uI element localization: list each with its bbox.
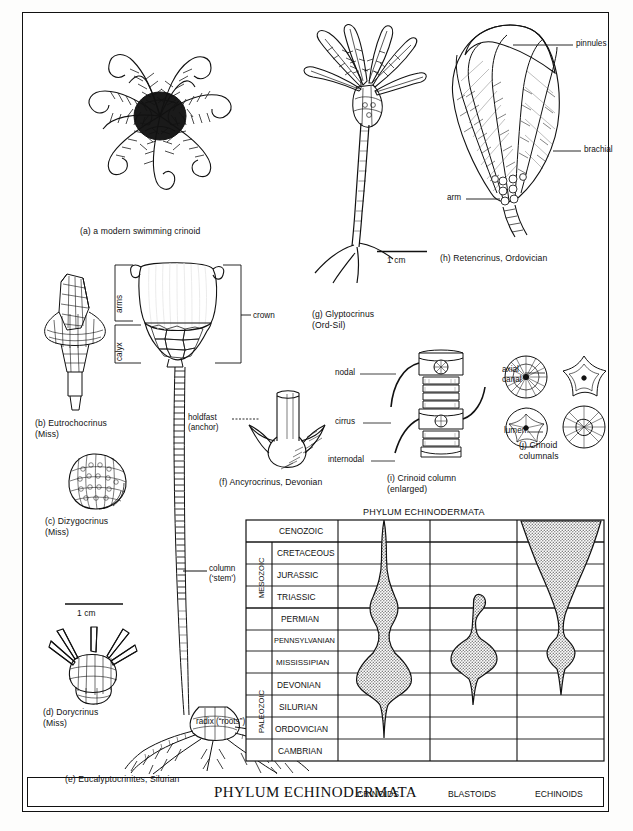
figure-a-caption: (a) a modern swimming crinoid xyxy=(80,226,200,237)
figure-f-ancyrocrinus xyxy=(245,391,329,473)
figure-i-crinoid-column xyxy=(389,345,499,465)
era-label-paleozoic: PALEOZOIC xyxy=(257,690,266,733)
period-label-triassic: TRIASSIC xyxy=(277,592,316,602)
crinoid-swimming-drawing xyxy=(45,21,275,211)
figure-e-crown xyxy=(111,259,251,369)
label-arm: arm xyxy=(447,193,461,203)
column-label-leader xyxy=(183,569,209,573)
figure-c-caption: (c) Dizygocrinus (Miss) xyxy=(45,516,108,538)
figure-c-dizygocrinus xyxy=(63,451,133,513)
plate-banner-title: PHYLUM ECHINODERMATA xyxy=(214,784,417,801)
figure-h-caption: (h) Retencrinus, Ordovician xyxy=(440,253,547,264)
label-cirrus: cirrus xyxy=(335,417,355,427)
era-label-mesozoic: MESOZOIC xyxy=(257,557,266,598)
eutrochocrinus-drawing xyxy=(37,268,115,418)
holdfast-label-leader xyxy=(232,417,262,421)
label-nodal: nodal xyxy=(335,368,355,378)
label-lumen: lumen xyxy=(504,426,526,436)
label-axial-canal: axial canal xyxy=(502,365,522,385)
scale-bar-left-label: 1 cm xyxy=(77,608,96,619)
label-calyx: calyx xyxy=(115,342,124,361)
label-radix: radix (“roots”) xyxy=(196,717,245,727)
crinoid-column-enlarged-drawing xyxy=(389,345,499,465)
brachial-label-leader xyxy=(553,149,583,153)
cirrus-label-leader xyxy=(363,421,393,425)
figure-g-caption: (g) Glyptocrinus (Ord-Sil) xyxy=(312,309,374,331)
figure-h-retencrinus xyxy=(435,21,575,241)
period-label-cenozoic: CENOZOIC xyxy=(279,526,323,536)
figure-i-caption: (i) Crinoid column (enlarged) xyxy=(387,473,456,495)
figure-plate: (a) a modern swimming crinoid xyxy=(22,12,609,812)
eucalyptocrinites-crown-drawing xyxy=(111,259,251,369)
label-brachial: brachial xyxy=(584,145,613,155)
period-label-mississipian: MISSISSIPIAN xyxy=(276,658,329,668)
figure-b-eutrochocrinus xyxy=(37,268,115,418)
chart-title: PHYLUM ECHINODERMATA xyxy=(363,507,485,517)
period-label-ordovician: ORDOVICIAN xyxy=(275,724,328,734)
dorycrinus-drawing xyxy=(45,625,141,707)
label-pinnules: pinnules xyxy=(576,39,607,49)
plate-banner: PHYLUM ECHINODERMATA xyxy=(27,777,604,807)
label-column-stem: column (‘stem’) xyxy=(209,564,236,584)
label-holdfast: holdfast (anchor) xyxy=(188,413,219,433)
plate-inner: (a) a modern swimming crinoid xyxy=(23,13,608,811)
arm-label-leader xyxy=(466,197,502,201)
holdfast-anchor-drawing xyxy=(245,391,329,473)
scale-bar-g-label: 1 cm xyxy=(387,255,406,266)
dizygocrinus-drawing xyxy=(63,451,133,513)
label-internodal: internodal xyxy=(328,455,364,465)
axial-canal-label-leader xyxy=(525,371,547,375)
figure-a-modern-swimming-crinoid xyxy=(45,21,275,211)
period-label-permian: PERMIAN xyxy=(281,614,319,624)
scale-bar-g xyxy=(377,249,429,254)
retencrinus-drawing xyxy=(435,21,575,241)
figure-j-caption: (j) Crinoid columnals xyxy=(519,440,559,462)
label-crown: crown xyxy=(253,311,275,321)
period-label-cretaceous: CRETACEOUS xyxy=(277,548,335,558)
figure-f-caption: (f) Ancyrocrinus, Devonian xyxy=(219,477,322,488)
scale-bar-left xyxy=(65,601,125,607)
nodal-label-leader xyxy=(360,372,398,376)
label-arms: arms xyxy=(115,295,124,313)
lumen-label-leader xyxy=(527,430,545,434)
figure-b-caption: (b) Eutrochocrinus (Miss) xyxy=(35,418,107,440)
pinnules-label-leader xyxy=(513,43,575,47)
period-label-jurassic: JURASSIC xyxy=(277,570,318,580)
period-label-silurian: SILURIAN xyxy=(279,702,318,712)
figure-d-dorycrinus xyxy=(45,625,141,707)
figure-d-caption: (d) Dorycrinus (Miss) xyxy=(43,707,98,729)
period-label-devonian: DEVONIAN xyxy=(277,680,321,690)
internodal-label-leader xyxy=(371,459,397,463)
period-label-pennsylvanian: PENNSYLVANIAN xyxy=(274,636,335,646)
period-label-cambrian: CAMBRIAN xyxy=(278,746,322,756)
